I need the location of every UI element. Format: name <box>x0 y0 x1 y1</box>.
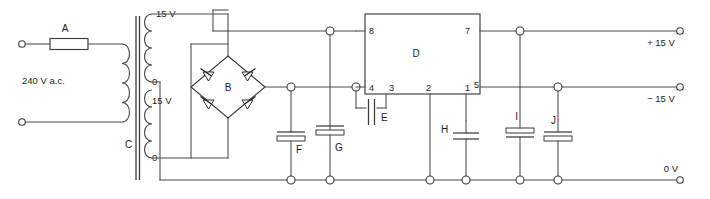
ic-ref-label: D <box>412 48 419 59</box>
output-label-negative: − 15 V <box>647 93 675 104</box>
cap-i-ref-label: I <box>515 111 518 122</box>
node-zero-rail-h <box>462 176 470 184</box>
node-zero-rail-f <box>287 176 295 184</box>
negative-rail-bridge <box>265 83 360 132</box>
capacitor-e: E <box>356 91 388 125</box>
ac-input-live-terminal[interactable] <box>19 41 26 48</box>
secondary-wiring <box>152 14 291 180</box>
bridge-diode-lower-right <box>242 97 256 110</box>
ic-pin-7-label: 7 <box>465 26 470 36</box>
node-zero-rail-g <box>326 176 334 184</box>
circuit-schematic-canvas: 240 V a.c. A 15 V 0 15 V 0 C <box>0 0 710 199</box>
supply-voltage-label: 240 V a.c. <box>22 75 65 86</box>
capacitor-j: J <box>544 91 572 176</box>
node-zero-rail-pin2 <box>426 176 434 184</box>
ic-pin-8-label: 8 <box>369 26 374 36</box>
bridge-diode-lower-left <box>201 97 215 110</box>
bridge-rectifier: B <box>191 56 265 118</box>
ic-pin-1-label: 1 <box>465 83 470 93</box>
capacitor-f: F <box>277 132 305 176</box>
node-positive-output <box>516 27 524 35</box>
output-label-positive: + 15 V <box>647 37 675 48</box>
capacitor-g: G <box>316 126 344 176</box>
node-positive-rail-g <box>326 27 334 35</box>
output-terminal-positive[interactable] <box>677 28 684 35</box>
output-label-zero: 0 V <box>664 163 679 174</box>
cap-j-ref-label: J <box>551 115 556 126</box>
ic-body <box>365 14 480 94</box>
ic-pin-2-label: 2 <box>426 83 431 93</box>
transformer-ref-label: C <box>125 139 132 150</box>
ic-pin-3-label: 3 <box>389 83 394 93</box>
node-zero-rail-j <box>554 176 562 184</box>
fuse-ref-label: A <box>62 23 69 34</box>
transformer-secondary-bottom-winding <box>145 90 153 158</box>
secondary-bottom-voltage-label: 15 V <box>152 95 172 106</box>
ic-pin-5-label: 5 <box>474 80 479 90</box>
circuit-diagram: 240 V a.c. A 15 V 0 15 V 0 C <box>0 0 710 199</box>
output-terminal-zero[interactable] <box>677 177 684 184</box>
integrated-circuit: D 8 7 4 3 2 1 5 <box>356 14 520 180</box>
fuse-body <box>50 39 88 50</box>
node-negative-output <box>554 83 562 91</box>
capacitor-h: H <box>441 121 479 176</box>
ac-input-neutral-terminal[interactable] <box>19 119 26 126</box>
ac-input-section: 240 V a.c. A <box>19 23 122 125</box>
output-terminal-negative[interactable] <box>677 84 684 91</box>
bridge-diode-upper-left <box>201 69 215 82</box>
cap-j-plate-bottom <box>544 136 572 141</box>
cap-g-plate-bottom <box>316 130 344 135</box>
cap-g-ref-label: G <box>335 142 343 153</box>
capacitor-i: I <box>506 35 534 176</box>
cap-f-ref-label: F <box>296 144 302 155</box>
positive-rail <box>213 10 356 132</box>
cap-h-ref-label: H <box>441 124 448 135</box>
ic-pin-4-label: 4 <box>369 83 374 93</box>
bridge-ref-label: B <box>225 82 232 93</box>
cap-i-plate-top <box>506 128 534 133</box>
output-rails: + 15 V − 15 V 0 V <box>287 27 683 184</box>
bridge-diode-upper-right <box>242 69 256 82</box>
node-cap-f-top <box>287 83 295 91</box>
cap-f-plate-bottom <box>277 136 305 141</box>
transformer-primary-winding <box>122 44 130 122</box>
transformer-secondary-top-winding <box>145 14 153 82</box>
node-zero-rail-i <box>516 176 524 184</box>
cap-e-ref-label: E <box>381 112 388 123</box>
transformer: 15 V 0 15 V 0 C <box>122 8 176 180</box>
